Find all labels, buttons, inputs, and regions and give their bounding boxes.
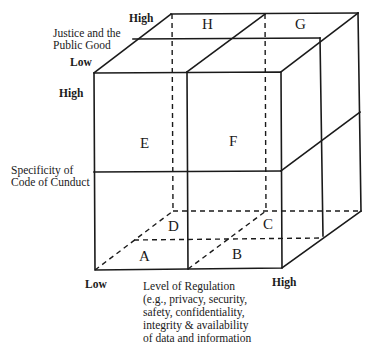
horizontal-axis-low: Low (85, 278, 107, 290)
top-mid-depth-edge (133, 38, 320, 39)
cell-label-h: H (202, 17, 213, 33)
vertical-axis-high: High (59, 87, 83, 99)
cell-label-d: D (168, 219, 179, 235)
depth-axis-title: Justice and the Public Good (53, 27, 121, 51)
right-mid-depth-vertical (320, 38, 323, 236)
front-mid-horizontal (94, 171, 281, 172)
cell-label-c: C (263, 217, 273, 233)
vertical-axis-title: Specificity of Code of Cunduct (11, 164, 90, 188)
cell-label-e: E (140, 136, 149, 152)
depth-axis-low: Low (70, 56, 92, 68)
cell-label-b: B (232, 247, 242, 263)
cell-label-g: G (295, 17, 306, 33)
cube-diagram: H G E F D C A B High Justice and the Pub… (0, 0, 372, 352)
horizontal-axis-title: Level of Regulation (e.g., privacy, secu… (143, 280, 251, 344)
cell-label-a: A (139, 249, 150, 265)
depth-axis-high: High (129, 12, 153, 24)
horizontal-axis-high: High (272, 276, 296, 288)
cell-label-f: F (229, 134, 237, 150)
front-mid-vertical (187, 72, 188, 269)
